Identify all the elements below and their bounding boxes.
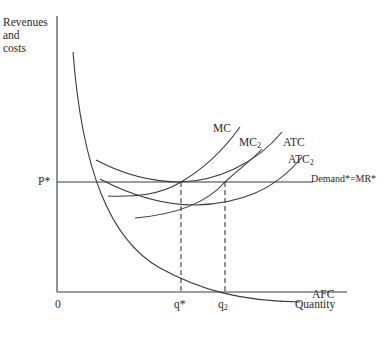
- atc2-label-text: ATC: [288, 153, 310, 165]
- mc-label: MC: [213, 122, 231, 135]
- q2-label: q2: [218, 298, 228, 314]
- afc-curve: [73, 52, 300, 302]
- demand-label: Demand*=MR*: [311, 172, 376, 185]
- atc-label: ATC: [283, 136, 305, 149]
- mc-curve: [108, 127, 240, 196]
- q2-label-subscript: 2: [224, 303, 228, 312]
- price-label: P*: [38, 175, 50, 188]
- y-axis-label-line-2: and: [3, 29, 48, 42]
- y-axis-label-line-3: costs: [3, 42, 48, 55]
- mc2-label: MC2: [239, 136, 261, 152]
- atc2-label-subscript: 2: [310, 158, 314, 167]
- mc2-label-text: MC: [239, 136, 257, 148]
- y-axis-label-line-1: Revenues: [3, 16, 48, 29]
- mc2-curve: [135, 149, 262, 218]
- atc2-curve: [100, 157, 302, 205]
- atc2-label: ATC2: [288, 153, 314, 169]
- mc2-label-subscript: 2: [257, 141, 261, 150]
- origin-label: 0: [55, 298, 61, 311]
- afc-label: AFC: [312, 288, 334, 301]
- y-axis-label: Revenues and costs: [3, 16, 48, 55]
- q-star-label: q*: [174, 298, 186, 311]
